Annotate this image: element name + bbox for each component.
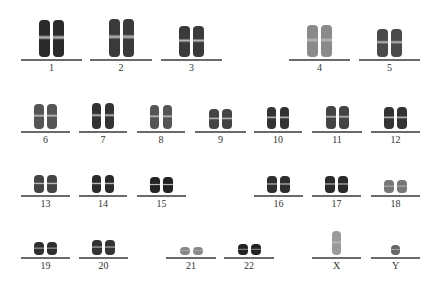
chromosome-image bbox=[47, 242, 57, 255]
chromosome-image bbox=[238, 244, 248, 255]
chromosome-pair-19: 19 bbox=[21, 0, 70, 287]
chromosome-label: Y bbox=[371, 260, 420, 271]
chromosome-pair-20: 20 bbox=[79, 0, 128, 287]
baseline-divider bbox=[312, 257, 361, 259]
baseline-divider bbox=[79, 257, 128, 259]
chromosome-image bbox=[193, 247, 203, 255]
chromosome-label: 22 bbox=[224, 260, 274, 271]
chromosome-label: X bbox=[312, 260, 361, 271]
chromosome-image bbox=[180, 247, 190, 255]
chromosome-image bbox=[251, 244, 261, 255]
chromosome-image bbox=[150, 177, 160, 193]
chromosome-label: 20 bbox=[79, 260, 128, 271]
chromosome-pair-y: Y bbox=[371, 0, 420, 287]
chromosome-image bbox=[280, 176, 290, 193]
chromosome-label: 19 bbox=[21, 260, 70, 271]
baseline-divider bbox=[371, 257, 420, 259]
chromosome-image bbox=[105, 240, 115, 255]
chromosome-image bbox=[34, 242, 44, 255]
chromosome-image bbox=[92, 240, 102, 255]
chromosome-image bbox=[332, 231, 342, 255]
chromosome-pair-x: X bbox=[312, 0, 361, 287]
baseline-divider bbox=[166, 257, 216, 259]
chromosome-pair-22: 22 bbox=[224, 0, 274, 287]
baseline-divider bbox=[21, 257, 70, 259]
chromosome-label: 21 bbox=[166, 260, 216, 271]
chromosome-pair-21: 21 bbox=[166, 0, 216, 287]
baseline-divider bbox=[224, 257, 274, 259]
chromosome-image bbox=[391, 245, 401, 255]
